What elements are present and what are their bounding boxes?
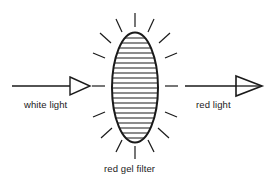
ray-mid-upper-left [93,53,105,58]
label-red-gel-filter: red gel filter [104,163,155,174]
diagram-canvas [0,0,272,183]
incoming-light-beam [12,77,90,95]
red-gel-filter-shape [110,33,160,143]
ray-bottom-left-steep [116,140,122,152]
ray-lower-right [158,128,169,138]
label-red-light: red light [196,99,231,110]
ray-bottom-right-steep [148,140,154,152]
ray-upper-left [100,33,111,43]
incoming-beam-arrowhead [70,77,90,95]
ray-top-left-steep [116,19,122,32]
ray-mid-lower-right [165,112,177,117]
label-white-light: white light [24,99,67,110]
filter-hatch-lines [110,38,160,138]
ray-mid-upper-right [165,53,177,58]
ray-mid-lower-left [93,112,105,117]
physics-diagram-figure: white light red light red gel filter [0,0,272,183]
ray-upper-right [159,33,170,43]
ray-lower-left [101,128,112,138]
outgoing-light-beam [185,76,262,96]
ray-top-right-steep [148,19,154,32]
